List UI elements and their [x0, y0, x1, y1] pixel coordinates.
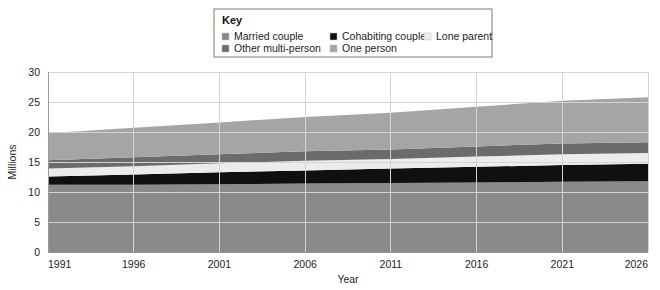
legend-label-one-person: One person — [342, 42, 397, 54]
legend-label-cohabiting-couple: Cohabiting couple — [342, 30, 426, 42]
y-axis-title: Millions — [6, 144, 18, 179]
legend: Key Married coupleCohabiting coupleLone … — [214, 9, 492, 57]
y-tick-label-5: 5 — [34, 216, 40, 228]
legend-swatch-lone-parent — [424, 33, 431, 40]
y-tick-label-15: 15 — [28, 156, 40, 168]
legend-label-other-multi-person: Other multi-person — [234, 42, 321, 54]
x-tick-label-2026: 2026 — [625, 258, 649, 270]
legend-title: Key — [222, 14, 243, 26]
x-axis-title: Year — [337, 273, 359, 285]
x-tick-label-1991: 1991 — [48, 258, 72, 270]
y-tick-label-20: 20 — [28, 126, 40, 138]
y-tick-label-10: 10 — [28, 186, 40, 198]
y-tick-label-0: 0 — [34, 246, 40, 258]
x-tick-label-2011: 2011 — [380, 258, 403, 270]
x-tick-label-2001: 2001 — [208, 258, 232, 270]
legend-swatch-one-person — [330, 45, 337, 52]
stacked-area-chart: 051015202530 199119962001200620112016202… — [0, 0, 660, 290]
legend-label-married-couple: Married couple — [234, 30, 304, 42]
x-tick-label-1996: 1996 — [122, 258, 146, 270]
legend-swatch-other-multi-person — [222, 45, 229, 52]
x-tick-label-2021: 2021 — [551, 258, 575, 270]
x-tick-label-2006: 2006 — [293, 258, 317, 270]
y-tick-label-30: 30 — [28, 66, 40, 78]
legend-swatch-married-couple — [222, 33, 229, 40]
legend-label-lone-parent: Lone parent — [436, 30, 492, 42]
chart-figure: 051015202530 199119962001200620112016202… — [0, 0, 660, 290]
legend-swatch-cohabiting-couple — [330, 33, 337, 40]
x-tick-label-2016: 2016 — [465, 258, 489, 270]
y-tick-label-25: 25 — [28, 96, 40, 108]
